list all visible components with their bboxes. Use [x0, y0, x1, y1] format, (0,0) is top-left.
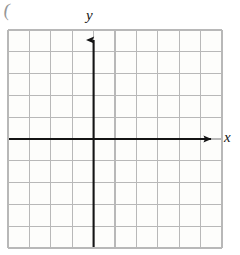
- y-axis-label: y: [86, 8, 93, 23]
- x-axis-label: x: [224, 130, 231, 145]
- coordinate-grid-figure: y x (: [0, 0, 240, 255]
- coordinate-grid-graphic: [0, 0, 240, 255]
